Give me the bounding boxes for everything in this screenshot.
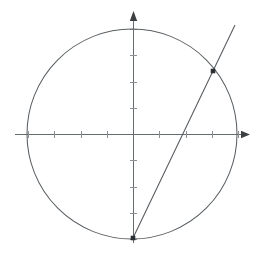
y-axis-group xyxy=(130,11,137,243)
unit-circle-plot xyxy=(0,0,265,256)
bottom-point-marker xyxy=(131,236,135,240)
x-axis-group xyxy=(15,131,250,138)
y-axis-arrow-icon xyxy=(130,11,137,21)
intersection-point-marker xyxy=(211,69,215,73)
x-axis-arrow-icon xyxy=(241,131,250,138)
secant-line xyxy=(133,25,235,238)
figure-canvas xyxy=(0,0,265,256)
